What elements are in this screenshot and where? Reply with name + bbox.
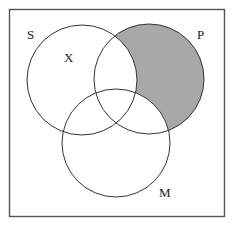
label-m: M — [159, 185, 171, 200]
venn-diagram: S X P M — [0, 0, 232, 226]
label-x-mark: X — [64, 50, 74, 65]
label-s: S — [27, 27, 34, 42]
label-p: P — [197, 27, 204, 42]
